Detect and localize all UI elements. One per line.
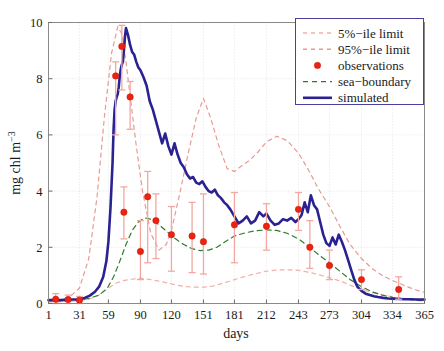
- observation-point: [326, 262, 332, 268]
- observation-point: [231, 222, 237, 228]
- legend-label: observations: [338, 58, 404, 73]
- observation-point: [65, 296, 71, 302]
- y-tick-label: 8: [36, 72, 42, 86]
- y-axis-title-exponent: −3: [6, 131, 17, 142]
- legend-label: sea−boundary: [338, 74, 412, 89]
- x-tick-label: 304: [352, 308, 372, 322]
- x-tick-label: 59: [102, 308, 115, 322]
- x-tick-label: 334: [383, 308, 403, 322]
- observation-point: [119, 43, 125, 49]
- legend-label: 95%−ile limit: [338, 42, 410, 57]
- observation-point: [307, 244, 313, 250]
- x-tick-label: 31: [73, 308, 86, 322]
- x-tick-label: 365: [415, 308, 434, 322]
- observation-point: [153, 217, 159, 223]
- observation-point: [295, 206, 301, 212]
- x-tick-label: 120: [162, 308, 181, 322]
- x-tick-label: 181: [225, 308, 244, 322]
- y-tick-label: 10: [30, 16, 43, 30]
- observation-point: [358, 276, 364, 282]
- observation-point: [200, 238, 206, 244]
- y-axis-title-main: mg chl m: [8, 142, 23, 195]
- chart-figure: 1315990120151181212243273304334365 02468…: [0, 0, 444, 351]
- y-tick-label: 4: [36, 185, 43, 199]
- observation-point: [395, 286, 401, 292]
- observation-point: [127, 94, 133, 100]
- x-axis-title: days: [223, 326, 249, 341]
- observation-point: [137, 248, 143, 254]
- x-tick-label: 90: [134, 308, 147, 322]
- legend-swatch-marker: [314, 62, 320, 68]
- legend-label: simulated: [338, 90, 389, 105]
- x-tick-label: 212: [257, 308, 276, 322]
- observation-point: [53, 296, 59, 302]
- observation-point: [263, 223, 269, 229]
- x-tick-label: 243: [289, 308, 308, 322]
- observation-point: [189, 233, 195, 239]
- x-tick-label: 151: [194, 308, 213, 322]
- y-tick-label: 2: [36, 241, 42, 255]
- x-tick-label: 1: [45, 308, 51, 322]
- observation-point: [112, 73, 118, 79]
- observation-point: [168, 231, 174, 237]
- y-tick-label: 6: [36, 128, 42, 142]
- x-tick-label: 273: [320, 308, 339, 322]
- y-tick-label: 0: [36, 297, 42, 311]
- observation-point: [121, 209, 127, 215]
- observation-point: [144, 194, 150, 200]
- chart-legend: 5%−ile limit95%−ile limitobservationssea…: [296, 19, 424, 106]
- legend-label: 5%−ile limit: [338, 26, 404, 41]
- chlorophyll-time-series-chart: 1315990120151181212243273304334365 02468…: [0, 0, 444, 351]
